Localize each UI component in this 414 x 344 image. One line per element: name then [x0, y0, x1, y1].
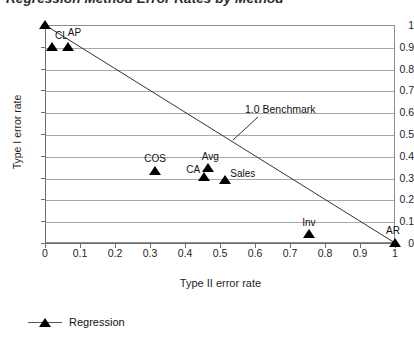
x-tick-mark — [45, 243, 46, 248]
data-point-label: CA — [186, 164, 200, 175]
data-point-marker — [389, 238, 401, 247]
x-tick-mark — [115, 243, 116, 248]
x-tick-label: 0.9 — [345, 247, 375, 259]
data-point-marker — [149, 166, 161, 175]
data-point-marker — [202, 163, 214, 172]
x-tick-label: 0.7 — [275, 247, 305, 259]
chart-figure: Regression Method Error Rates by Method … — [0, 0, 414, 344]
x-tick-label: 0.1 — [65, 247, 95, 259]
y-axis-title: Type I error rate — [11, 77, 23, 187]
x-tick-mark — [150, 243, 151, 248]
chart-legend: Regression — [28, 316, 125, 328]
benchmark-annotation-label: 1.0 Benchmark — [245, 103, 316, 115]
x-tick-label: 0.4 — [170, 247, 200, 259]
x-tick-label: 0.8 — [310, 247, 340, 259]
data-point-marker — [62, 42, 74, 51]
x-tick-mark — [290, 243, 291, 248]
x-tick-label: 0.3 — [135, 247, 165, 259]
data-point-label: Inv — [302, 217, 315, 228]
data-point-label: AP — [68, 27, 81, 38]
x-tick-label: 0 — [30, 247, 60, 259]
x-tick-mark — [255, 243, 256, 248]
data-point-label: Avg — [202, 151, 219, 162]
x-tick-mark — [325, 243, 326, 248]
x-axis-title: Type II error rate — [45, 277, 396, 289]
x-tick-label: 0.6 — [240, 247, 270, 259]
x-tick-label: 0.2 — [100, 247, 130, 259]
data-point-marker — [39, 20, 51, 29]
x-tick-label: 1 — [380, 247, 410, 259]
x-tick-mark — [220, 243, 221, 248]
data-point-label: COS — [144, 153, 166, 164]
x-tick-mark — [360, 243, 361, 248]
legend-label: Regression — [69, 316, 125, 328]
data-point-marker — [303, 229, 315, 238]
x-tick-mark — [80, 243, 81, 248]
data-points-layer: CLAPCOSAvgCASalesInvAR — [45, 25, 395, 243]
data-point-label: CL — [55, 30, 68, 41]
legend-marker-triangle-icon — [28, 316, 62, 328]
x-tick-label: 0.5 — [205, 247, 235, 259]
data-point-label: Sales — [230, 168, 255, 179]
data-point-marker — [46, 42, 58, 51]
chart-title: Regression Method Error Rates by Method — [6, 0, 406, 6]
x-tick-mark — [185, 243, 186, 248]
data-point-label: AR — [386, 225, 400, 236]
